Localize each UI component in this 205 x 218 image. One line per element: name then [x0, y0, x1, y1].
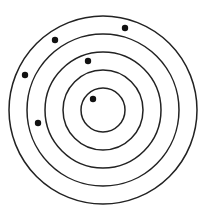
dot-2: [52, 37, 58, 43]
dot-4: [22, 72, 28, 78]
dot-5: [35, 120, 41, 126]
dot-3: [85, 58, 91, 64]
concentric-rings-diagram: [0, 0, 205, 218]
dot-1: [122, 25, 128, 31]
ring-5: [81, 88, 125, 132]
rings-canvas: [0, 0, 205, 218]
dot-6: [90, 96, 96, 102]
ring-4: [63, 70, 143, 150]
rings-group: [9, 16, 197, 204]
ring-1: [9, 16, 197, 204]
ring-2: [27, 34, 179, 186]
